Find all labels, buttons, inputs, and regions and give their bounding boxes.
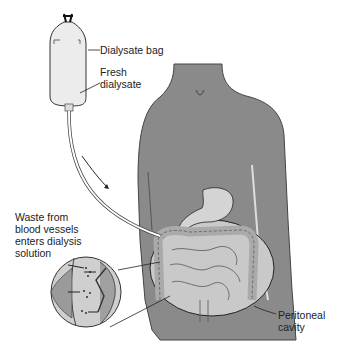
label-cavity-2: cavity xyxy=(278,321,305,333)
label-waste-4: solution xyxy=(15,247,51,259)
dialysate-bag[interactable] xyxy=(50,22,86,106)
bag-port xyxy=(65,104,73,111)
label-fresh-2: dialysate xyxy=(100,78,141,90)
label-waste-1: Waste from xyxy=(15,211,68,223)
label-waste-3: enters dialysis xyxy=(15,235,82,247)
label-dialysate-bag: Dialysate bag xyxy=(100,44,164,56)
bag-clip-icon xyxy=(63,14,73,22)
label-waste-2: blood vessels xyxy=(15,223,79,235)
label-cavity-1: Peritoneal xyxy=(278,309,325,321)
dialysis-diagram xyxy=(0,0,339,346)
magnified-inset xyxy=(51,257,121,327)
label-fresh-1: Fresh xyxy=(100,66,127,78)
